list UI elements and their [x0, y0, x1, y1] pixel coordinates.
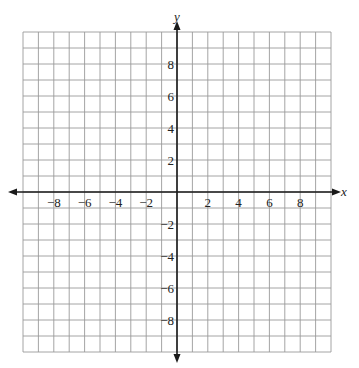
y-tick-label: −6 — [160, 281, 174, 296]
x-tick-label: 6 — [266, 195, 273, 210]
x-tick-label: 4 — [235, 195, 242, 210]
x-tick-label: 8 — [297, 195, 304, 210]
coordinate-grid-svg: −8−6−4−224688642−2−4−6−8 x y — [0, 0, 359, 368]
y-tick-label: −2 — [160, 217, 174, 232]
x-tick-label: −4 — [108, 195, 122, 210]
y-tick-label: −4 — [160, 249, 174, 264]
x-tick-label: −6 — [78, 195, 92, 210]
axes — [8, 21, 341, 363]
y-tick-label: −8 — [160, 313, 174, 328]
x-axis-right-arrow-icon — [332, 189, 341, 196]
y-axis-bottom-arrow-icon — [174, 354, 181, 363]
y-tick-label: 4 — [168, 121, 175, 136]
x-axis-left-arrow-icon — [8, 189, 17, 196]
x-axis-label: x — [340, 184, 347, 199]
y-tick-label: 8 — [168, 57, 175, 72]
x-tick-label: −2 — [139, 195, 153, 210]
y-axis-label: y — [172, 9, 180, 24]
x-tick-label: −8 — [47, 195, 61, 210]
x-tick-label: 2 — [205, 195, 212, 210]
y-tick-label: 2 — [168, 153, 175, 168]
y-tick-label: 6 — [168, 89, 175, 104]
